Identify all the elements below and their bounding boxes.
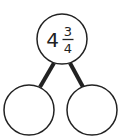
fraction-denominator: 4 bbox=[64, 41, 72, 56]
connector-right bbox=[70, 63, 83, 87]
whole-circle bbox=[37, 14, 87, 64]
number-bond-diagram: 4 3 4 bbox=[0, 0, 131, 136]
fraction-numerator: 3 bbox=[64, 24, 72, 39]
connector-left bbox=[40, 63, 54, 87]
part-circle-right[interactable] bbox=[67, 85, 117, 135]
whole-number: 4 bbox=[46, 28, 59, 52]
part-circle-left[interactable] bbox=[4, 85, 54, 135]
